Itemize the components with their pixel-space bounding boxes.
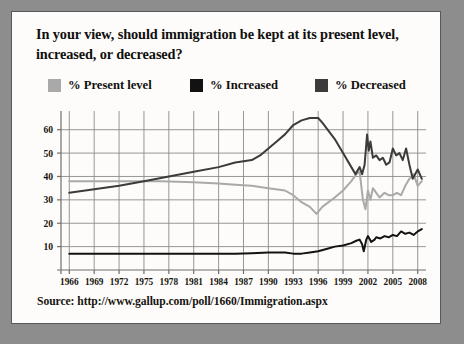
screenshot-root: In your view, should immigration be kept… xyxy=(0,0,464,344)
svg-text:1972: 1972 xyxy=(110,277,129,287)
data-series-lines xyxy=(69,118,422,254)
svg-text:2008: 2008 xyxy=(408,277,427,287)
svg-text:2005: 2005 xyxy=(384,277,403,287)
svg-text:1975: 1975 xyxy=(135,277,154,287)
svg-text:1984: 1984 xyxy=(209,277,228,287)
svg-text:1993: 1993 xyxy=(284,277,303,287)
svg-text:30: 30 xyxy=(43,194,53,205)
svg-text:40: 40 xyxy=(43,171,53,182)
svg-text:20: 20 xyxy=(43,218,53,229)
svg-text:1969: 1969 xyxy=(85,277,104,287)
svg-text:10: 10 xyxy=(43,241,53,252)
axis-lines xyxy=(57,111,426,274)
chart-card: In your view, should immigration be kept… xyxy=(11,11,441,324)
svg-text:60: 60 xyxy=(43,124,53,135)
chart-plot-area: 102030405060 196619691972197519781981198… xyxy=(12,12,442,325)
svg-text:1999: 1999 xyxy=(334,277,353,287)
y-axis-tick-labels: 102030405060 xyxy=(43,124,53,252)
line-chart: 102030405060 196619691972197519781981198… xyxy=(12,12,442,325)
grid-lines xyxy=(61,111,426,270)
svg-text:1966: 1966 xyxy=(60,277,79,287)
svg-text:1981: 1981 xyxy=(184,277,203,287)
svg-text:1978: 1978 xyxy=(160,277,179,287)
svg-text:1996: 1996 xyxy=(309,277,328,287)
svg-text:50: 50 xyxy=(43,148,53,159)
svg-text:2002: 2002 xyxy=(359,277,378,287)
svg-text:1987: 1987 xyxy=(234,277,253,287)
x-axis-tick-labels: 1966196919721975197819811984198719901993… xyxy=(60,277,427,287)
source-caption: Source: http://www.gallup.com/poll/1660/… xyxy=(37,295,328,308)
svg-text:1990: 1990 xyxy=(259,277,278,287)
